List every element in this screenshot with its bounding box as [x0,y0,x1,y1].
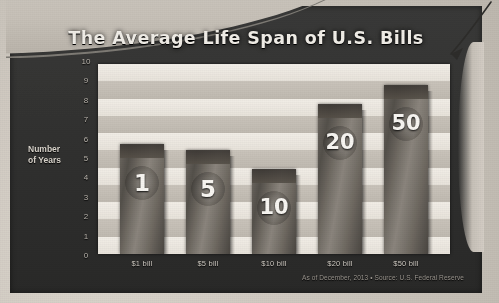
bar-shadow [362,110,367,254]
y-axis-tick: 4 [78,174,94,182]
y-axis-label-line2: of Years [28,155,84,166]
y-axis-tick: 9 [78,77,94,85]
y-axis-label: Number of Years [28,144,84,166]
bar-shadow [296,175,301,255]
bar-value-label: 10 [252,195,296,219]
bar-value-label: 20 [318,130,362,154]
y-axis-tick: 5 [78,155,94,163]
bar: 1 [120,144,164,254]
y-axis-tick: 8 [78,97,94,105]
bar-shadow [428,91,433,254]
bar-value-label: 1 [120,170,164,196]
bar: 5 [186,150,230,255]
y-axis-tick: 1 [78,233,94,241]
x-axis-label: $20 bill [308,259,372,268]
bar-top-cap [318,104,362,118]
scanned-page: The Average Life Span of U.S. Bills Numb… [0,0,499,303]
infographic-panel: The Average Life Span of U.S. Bills Numb… [10,6,482,293]
bar: 20 [318,104,362,254]
bar: 10 [252,169,296,255]
y-axis-tick: 6 [78,136,94,144]
y-axis-tick: 2 [78,213,94,221]
x-axis-label: $50 bill [374,259,438,268]
bar-top-cap [186,150,230,164]
bar: 50 [384,85,428,254]
bar-shadow [164,150,169,254]
y-axis-ticks: 109876543210 [78,62,94,256]
y-axis-tick: 0 [78,252,94,260]
bar-top-cap [384,85,428,99]
stripe [98,64,450,81]
y-axis-tick: 10 [78,58,94,66]
bar-top-cap [252,169,296,183]
bar-top-cap [120,144,164,158]
y-axis-tick: 7 [78,116,94,124]
y-axis-label-line1: Number [28,144,84,155]
x-axis-label: $10 bill [242,259,306,268]
bar-value-label: 50 [384,111,428,135]
chart-title: The Average Life Span of U.S. Bills [10,28,482,48]
plot-area: 15102050 [98,64,450,254]
y-axis-tick: 3 [78,194,94,202]
x-axis-label: $1 bill [110,259,174,268]
bar-value-label: 5 [186,176,230,202]
source-footnote: As of December, 2013 • Source: U.S. Fede… [302,274,464,281]
paper-bleed-right [458,42,484,252]
x-axis-label: $5 bill [176,259,240,268]
bar-shadow [230,156,235,255]
